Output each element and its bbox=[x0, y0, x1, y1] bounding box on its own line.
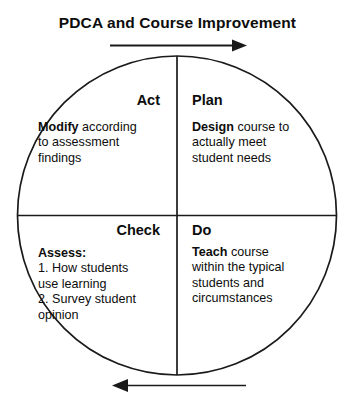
quadrant-act-title: Act bbox=[38, 92, 164, 109]
quadrant-act-rest: according bbox=[79, 120, 137, 134]
quadrant-plan-line-2: student needs bbox=[192, 151, 322, 166]
quadrant-do-title: Do bbox=[192, 222, 324, 239]
quadrant-do-rest: course bbox=[227, 245, 268, 259]
quadrant-plan: Plan Design course to actually meet stud… bbox=[192, 92, 322, 166]
quadrant-do-line-1: within the typical bbox=[192, 260, 324, 275]
diagram-frame bbox=[0, 0, 355, 419]
quadrant-act: Act Modify according to assessment findi… bbox=[38, 92, 164, 166]
quadrant-check: Check Assess: 1. How students use learni… bbox=[38, 222, 164, 323]
quadrant-check-line-2: use learning bbox=[38, 277, 164, 292]
quadrant-check-line-4: opinion bbox=[38, 308, 164, 323]
quadrant-act-lead: Modify bbox=[38, 120, 79, 134]
quadrant-do-lead: Teach bbox=[192, 245, 227, 259]
bottom-arrow-icon bbox=[112, 379, 246, 392]
quadrant-act-line-2: findings bbox=[38, 151, 164, 166]
quadrant-do-line-2: students and bbox=[192, 276, 324, 291]
quadrant-plan-body: Design course to actually meet student n… bbox=[192, 120, 322, 166]
quadrant-plan-lead: Design bbox=[192, 120, 234, 134]
pdca-diagram: PDCA and Course Improvement Act Modify a… bbox=[0, 0, 355, 419]
quadrant-act-line-1: to assessment bbox=[38, 135, 164, 150]
quadrant-do-line-3: circumstances bbox=[192, 291, 324, 306]
quadrant-check-body: Assess: 1. How students use learning 2. … bbox=[38, 246, 164, 323]
quadrant-plan-line-1: actually meet bbox=[192, 135, 322, 150]
quadrant-check-line-1: 1. How students bbox=[38, 261, 164, 276]
top-arrow-icon bbox=[110, 40, 247, 52]
page-title: PDCA and Course Improvement bbox=[0, 13, 355, 32]
quadrant-plan-title: Plan bbox=[192, 92, 322, 109]
quadrant-act-body: Modify according to assessment findings bbox=[38, 120, 164, 166]
quadrant-check-title: Check bbox=[38, 222, 164, 239]
quadrant-check-lead: Assess: bbox=[38, 246, 86, 260]
quadrant-do: Do Teach course within the typical stude… bbox=[192, 222, 324, 307]
quadrant-do-body: Teach course within the typical students… bbox=[192, 245, 324, 307]
quadrant-check-line-3: 2. Survey student bbox=[38, 292, 164, 307]
quadrant-plan-rest: course to bbox=[234, 120, 289, 134]
